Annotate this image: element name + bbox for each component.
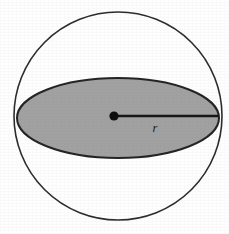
sphere-diagram-figure: r — [0, 0, 229, 234]
sphere-diagram-canvas: r — [0, 0, 229, 234]
radius-label-r: r — [153, 121, 158, 135]
center-point-dot — [109, 111, 118, 120]
